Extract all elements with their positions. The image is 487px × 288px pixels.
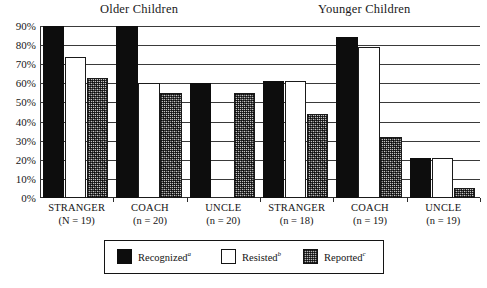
x-category-sample-size: (n = 19) (407, 215, 480, 228)
bar-recognized-coach-4 (336, 37, 358, 198)
bar-reported-stranger-0 (87, 78, 109, 198)
bar-resisted-coach-4 (358, 47, 380, 198)
bar-reported-coach-1 (160, 93, 182, 198)
chart-legend: Recognizeda Resistedb Reportedc (104, 240, 384, 274)
y-axis-tick-label: 30% (0, 136, 36, 147)
x-category-label-2: UNCLE(n = 20) (187, 202, 260, 227)
x-category-name: UNCLE (187, 202, 260, 215)
bar-resisted-uncle-5 (432, 158, 454, 198)
y-axis-tick-label: 40% (0, 117, 36, 128)
x-category-label-5: UNCLE(n = 19) (407, 202, 480, 227)
x-category-sample-size: (n = 20) (113, 215, 186, 228)
x-category-label-3: STRANGER(n = 18) (260, 202, 333, 227)
x-category-name: STRANGER (260, 202, 333, 215)
legend-superscript: b (278, 250, 282, 258)
gridline (40, 45, 480, 46)
plot-area: 0%10%20%30%40%50%60%70%80%90% (40, 26, 480, 198)
legend-label-resisted: Resistedb (242, 250, 281, 263)
bar-resisted-stranger-0 (65, 57, 87, 198)
y-axis-tick-label: 50% (0, 97, 36, 108)
bar-reported-uncle-2 (234, 93, 256, 198)
legend-swatch-reported-icon (303, 249, 318, 264)
x-category-name: STRANGER (40, 202, 113, 215)
x-category-name: COACH (113, 202, 186, 215)
x-axis-tick-mark-icon (480, 198, 481, 202)
legend-swatch-resisted-icon (221, 249, 236, 264)
x-category-sample-size: (n = 19) (333, 215, 406, 228)
y-axis (40, 26, 41, 198)
bar-recognized-stranger-0 (43, 26, 65, 198)
legend-label-recognized: Recognizeda (138, 250, 191, 263)
x-category-sample-size: (n = 20) (187, 215, 260, 228)
x-category-sample-size: (N = 19) (40, 215, 113, 228)
y-axis-tick-label: 0% (0, 193, 36, 204)
group-header-older-children: Older Children (100, 2, 178, 17)
legend-item-reported: Reportedc (303, 249, 366, 264)
bar-chart: Older Children Younger Children 0%10%20%… (0, 0, 487, 288)
bar-resisted-coach-1 (138, 83, 160, 198)
y-axis-tick-label: 10% (0, 174, 36, 185)
x-category-sample-size: (n = 18) (260, 215, 333, 228)
bar-reported-stranger-3 (307, 114, 329, 198)
legend-item-recognized: Recognizeda (117, 249, 191, 264)
legend-superscript: a (188, 250, 192, 258)
y-axis-tick-label: 20% (0, 155, 36, 166)
x-category-name: COACH (333, 202, 406, 215)
bar-recognized-uncle-2 (190, 83, 212, 198)
x-category-label-0: STRANGER(N = 19) (40, 202, 113, 227)
bar-recognized-uncle-5 (410, 158, 432, 198)
bar-reported-uncle-5 (454, 188, 476, 198)
legend-item-resisted: Resistedb (221, 249, 281, 264)
legend-label-reported: Reportedc (324, 250, 366, 263)
x-category-name: UNCLE (407, 202, 480, 215)
y-axis-tick-label: 70% (0, 59, 36, 70)
bar-recognized-stranger-3 (263, 81, 285, 198)
group-header-younger-children: Younger Children (318, 2, 411, 17)
legend-superscript: c (363, 250, 366, 258)
gridline (40, 26, 480, 27)
x-category-label-1: COACH(n = 20) (113, 202, 186, 227)
bar-recognized-coach-1 (116, 26, 138, 198)
bar-reported-coach-4 (380, 137, 402, 198)
legend-swatch-recognized-icon (117, 249, 132, 264)
y-axis-tick-label: 90% (0, 21, 36, 32)
x-category-label-4: COACH(n = 19) (333, 202, 406, 227)
gridline (40, 64, 480, 65)
y-axis-tick-label: 80% (0, 40, 36, 51)
y-axis-tick-label: 60% (0, 78, 36, 89)
bar-resisted-stranger-3 (285, 81, 307, 198)
